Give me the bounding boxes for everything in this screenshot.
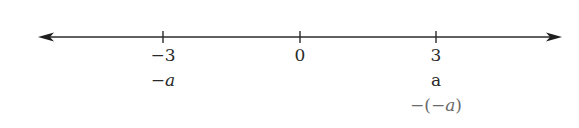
annotation-suffix: ) bbox=[455, 95, 462, 115]
annotation-variable: a bbox=[431, 70, 441, 90]
tick-label-3: 3 bbox=[431, 46, 442, 64]
annotation-neg-neg-a: −(−a) bbox=[410, 96, 462, 114]
annotation-variable: a bbox=[445, 95, 455, 115]
number-line bbox=[0, 0, 579, 128]
annotation-neg-a: −a bbox=[151, 71, 175, 89]
annotation-a: a bbox=[431, 71, 441, 89]
annotation-prefix: −(− bbox=[410, 95, 445, 115]
tick-label-neg3: −3 bbox=[150, 46, 175, 64]
annotation-variable: a bbox=[165, 70, 175, 90]
annotation-prefix: − bbox=[151, 70, 165, 90]
tick-label-0: 0 bbox=[295, 46, 306, 64]
